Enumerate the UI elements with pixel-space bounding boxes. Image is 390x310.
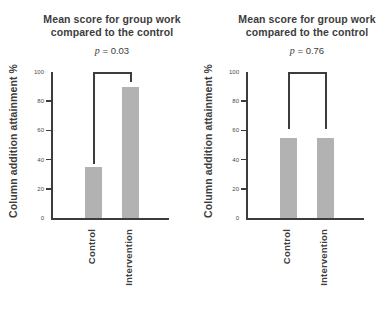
y-tick-label: 100 (30, 69, 44, 75)
y-tick-mark (46, 159, 51, 161)
bracket-left-drop (93, 72, 95, 164)
y-tick-mark (241, 100, 246, 102)
p-value-text: = 0.76 (297, 45, 324, 56)
p-symbol: p (290, 45, 295, 56)
chart-right: Mean score for group work compared to th… (195, 0, 390, 310)
bar-control (280, 138, 297, 218)
p-value-text: = 0.03 (102, 45, 129, 56)
bracket-right-drop (130, 72, 132, 82)
bar-intervention (317, 138, 334, 218)
y-tick-label: 100 (225, 69, 239, 75)
p-symbol: p (95, 45, 100, 56)
y-tick-label: 20 (30, 186, 44, 192)
x-category-label: Control (86, 229, 97, 264)
p-value-annotation: p = 0.76 (231, 45, 383, 56)
y-tick-label: 40 (225, 157, 239, 163)
bar-control (85, 167, 102, 218)
chart-title-line2: compared to the control (36, 26, 188, 39)
y-tick-mark (241, 130, 246, 132)
p-value-annotation: p = 0.03 (36, 45, 188, 56)
y-tick-label: 60 (225, 127, 239, 133)
y-tick-mark (46, 130, 51, 132)
plot-area: 020406080100ControlIntervention (246, 72, 364, 220)
x-category-label: Control (281, 229, 292, 264)
y-tick-mark (241, 188, 246, 190)
chart-title: Mean score for group work compared to th… (231, 13, 383, 39)
dual-bar-chart-figure: Mean score for group work compared to th… (0, 0, 390, 310)
y-tick-mark (241, 159, 246, 161)
y-tick-label: 0 (225, 215, 239, 221)
chart-title-line2: compared to the control (231, 26, 383, 39)
y-tick-label: 80 (225, 98, 239, 104)
y-tick-label: 80 (30, 98, 44, 104)
y-tick-mark (46, 188, 51, 190)
bracket-horizontal (93, 72, 132, 74)
y-tick-label: 0 (30, 215, 44, 221)
y-tick-label: 40 (30, 157, 44, 163)
chart-title-line1: Mean score for group work (36, 13, 188, 26)
bracket-horizontal (288, 72, 327, 74)
x-category-label: Intervention (123, 229, 134, 286)
chart-left: Mean score for group work compared to th… (0, 0, 195, 310)
bracket-left-drop (288, 72, 290, 129)
x-category-label: Intervention (318, 229, 329, 286)
y-tick-mark (46, 100, 51, 102)
y-axis-label: Column addition attainment % (7, 64, 19, 218)
y-tick-label: 60 (30, 127, 44, 133)
bracket-right-drop (325, 72, 327, 129)
plot-area: 020406080100ControlIntervention (51, 72, 169, 220)
bar-intervention (122, 87, 139, 218)
y-axis-label: Column addition attainment % (202, 64, 214, 218)
y-tick-label: 20 (225, 186, 239, 192)
chart-title: Mean score for group work compared to th… (36, 13, 188, 39)
chart-title-line1: Mean score for group work (231, 13, 383, 26)
